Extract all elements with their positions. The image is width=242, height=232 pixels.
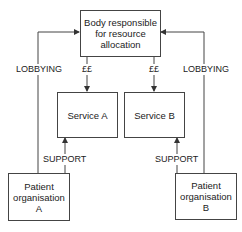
edge-label-lobbying-b: LOBBYING: [182, 64, 230, 75]
edge-label-money-a: ££: [81, 64, 93, 75]
node-resource-body: Body responsible for resource allocation: [80, 10, 161, 57]
node-patient-org-b: Patient organisation B: [175, 173, 237, 220]
edge-label-support-b: SUPPORT: [154, 154, 199, 165]
node-service-a: Service A: [57, 92, 118, 138]
edge-label-support-a: SUPPORT: [42, 154, 87, 165]
edge-label-money-b: ££: [148, 64, 160, 75]
node-service-b: Service B: [124, 92, 185, 138]
edge-label-lobbying-a: LOBBYING: [15, 64, 63, 75]
node-patient-org-a: Patient organisation A: [8, 173, 70, 221]
